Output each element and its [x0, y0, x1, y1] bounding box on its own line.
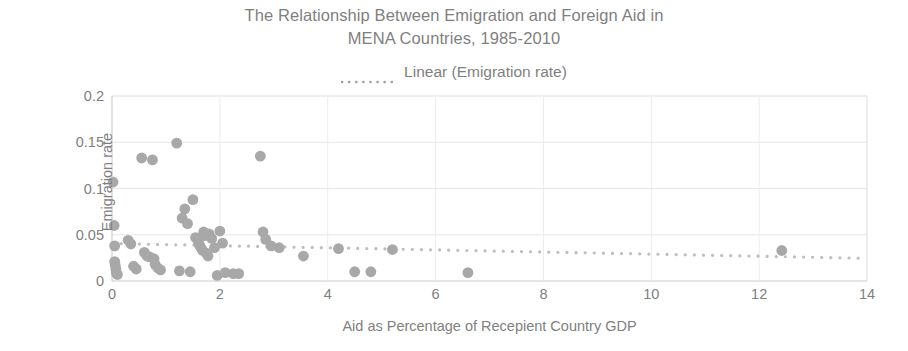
grid-lines: [112, 96, 867, 281]
scatter-point: [187, 194, 198, 205]
scatter-points: [108, 138, 788, 281]
x-axis-tick-label: 12: [739, 286, 779, 302]
x-axis-tick-label: 2: [200, 286, 240, 302]
x-axis-tick-label: 0: [92, 286, 132, 302]
y-axis-tick-label: 0.05: [42, 225, 104, 245]
x-axis-tick-label: 8: [523, 286, 563, 302]
scatter-point: [182, 218, 193, 229]
scatter-point: [463, 267, 474, 278]
scatter-point: [214, 226, 225, 237]
scatter-point: [206, 233, 217, 244]
legend-item-label: Linear (Emigration rate): [404, 63, 567, 81]
scatter-point: [217, 238, 228, 249]
scatter-point: [349, 266, 360, 277]
y-axis-tick-label: 0.15: [42, 132, 104, 152]
scatter-point: [147, 154, 158, 165]
scatter-point: [255, 151, 266, 162]
x-axis-tick-label: 4: [308, 286, 348, 302]
chart-title-line-1: The Relationship Between Emigration and …: [0, 4, 908, 27]
x-axis-label: Aid as Percentage of Recepient Country G…: [112, 318, 867, 334]
chart-title-line-2: MENA Countries, 1985-2010: [0, 27, 908, 50]
x-axis-tick-label: 6: [416, 286, 456, 302]
scatter-point: [274, 242, 285, 253]
scatter-chart: The Relationship Between Emigration and …: [0, 0, 908, 351]
x-axis-tick-label: 14: [847, 286, 887, 302]
scatter-point: [179, 203, 190, 214]
scatter-point: [185, 266, 196, 277]
y-axis-tick-label: 0.2: [42, 86, 104, 106]
scatter-point: [233, 268, 244, 279]
scatter-point: [155, 265, 166, 276]
scatter-point: [174, 265, 185, 276]
scatter-point: [333, 243, 344, 254]
chart-legend: Linear (Emigration rate): [0, 63, 908, 81]
scatter-point: [387, 244, 398, 255]
x-axis-ticks: 02468101214: [112, 286, 867, 310]
plot-canvas: [112, 96, 867, 281]
scatter-point: [298, 251, 309, 262]
chart-title: The Relationship Between Emigration and …: [0, 4, 908, 50]
plot-area: Emigration rate 0.20.150.10.050 02468101…: [112, 96, 867, 281]
scatter-point: [365, 266, 376, 277]
scatter-point: [776, 245, 787, 256]
scatter-point: [171, 138, 182, 149]
scatter-point: [131, 264, 142, 275]
scatter-point: [125, 239, 136, 250]
dotted-line-icon: [341, 70, 397, 74]
scatter-point: [136, 153, 147, 164]
y-axis-ticks: 0.20.150.10.050: [42, 86, 104, 291]
y-axis-tick-label: 0.1: [42, 179, 104, 199]
x-axis-tick-label: 10: [631, 286, 671, 302]
